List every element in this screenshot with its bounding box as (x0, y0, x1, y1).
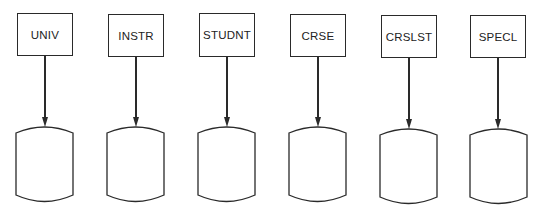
entity-box-crse: CRSE (290, 14, 346, 57)
arrow-crslst (406, 58, 412, 129)
storage-cylinder-studnt (198, 127, 255, 202)
entity-box-univ: UNIV (17, 13, 73, 56)
storage-cylinder-crslst (380, 129, 437, 204)
entity-label: SPECL (479, 31, 518, 43)
arrowhead-icon (315, 117, 321, 127)
arrowhead-icon (224, 117, 230, 127)
entity-label: CRSE (302, 30, 335, 42)
storage-cylinder-specl (470, 129, 527, 204)
arrowhead-icon (406, 119, 412, 129)
arrowhead-icon (495, 119, 501, 129)
entity-label: UNIV (31, 29, 59, 41)
arrowhead-icon (42, 117, 48, 127)
entity-label: CRSLST (386, 31, 433, 43)
entity-box-crslst: CRSLST (381, 15, 437, 58)
storage-cylinder-crse (289, 127, 346, 202)
arrow-crse (315, 57, 321, 127)
arrow-studnt (224, 57, 230, 127)
arrowhead-icon (133, 117, 139, 127)
entity-box-instr: INSTR (108, 14, 164, 57)
arrow-univ (42, 56, 48, 127)
connector-layer (0, 0, 542, 216)
arrow-instr (133, 57, 139, 127)
arrow-specl (495, 58, 501, 129)
diagram-canvas: UNIVINSTRSTUDNTCRSECRSLSTSPECL (0, 0, 542, 216)
storage-cylinder-univ (16, 127, 73, 202)
entity-label: STUDNT (203, 29, 251, 41)
entity-box-specl: SPECL (470, 15, 526, 58)
entity-label: INSTR (118, 30, 154, 42)
entity-box-studnt: STUDNT (199, 13, 255, 57)
storage-cylinder-instr (107, 127, 164, 202)
